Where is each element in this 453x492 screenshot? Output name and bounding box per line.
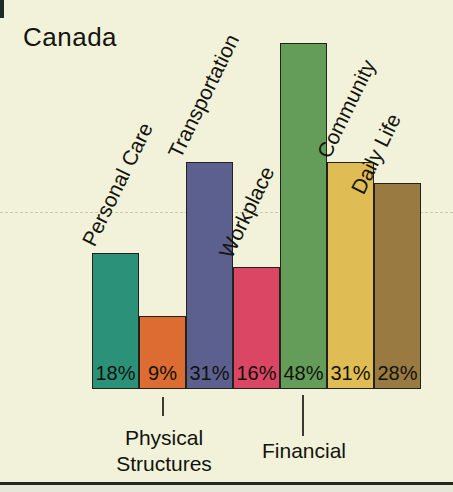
label-line: Physical (116, 425, 212, 451)
bar-transportation (186, 162, 233, 389)
plot-area: 18%Personal Care9%31%Transportation16%Wo… (0, 0, 453, 492)
value-label-physical-structures: 9% (139, 361, 186, 385)
category-label-personal-care: Personal Care (77, 119, 157, 250)
value-label-transportation: 31% (186, 361, 233, 385)
value-label-community: 31% (327, 361, 374, 385)
label-line: Financial (262, 438, 346, 464)
value-label-financial: 48% (280, 361, 327, 385)
category-label-financial: Financial (262, 438, 346, 464)
value-label-daily-life: 28% (374, 361, 421, 385)
category-label-transportation: Transportation (163, 30, 244, 162)
callout-leader-physical-structures (162, 397, 164, 416)
category-label-physical-structures: PhysicalStructures (116, 425, 212, 477)
value-label-workplace: 16% (233, 361, 280, 385)
value-label-personal-care: 18% (92, 361, 139, 385)
bar-daily-life (374, 183, 421, 389)
label-line: Structures (116, 451, 212, 477)
callout-leader-financial (302, 395, 304, 436)
page-bottom-margin (0, 485, 453, 492)
bar-financial (280, 43, 327, 389)
scanned-chart-page: Canada 18%Personal Care9%31%Transportati… (0, 0, 453, 492)
